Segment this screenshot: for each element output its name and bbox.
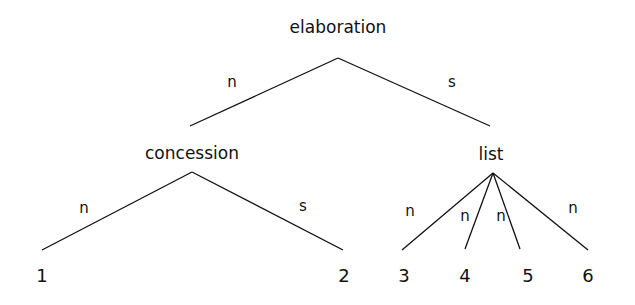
tree-edge	[192, 172, 343, 250]
leaf-4: 4	[459, 267, 470, 285]
node-elaboration: elaboration	[290, 19, 387, 36]
leaf-1: 1	[36, 267, 47, 285]
edge-label-list-4: n	[568, 201, 578, 216]
tree-edge	[338, 58, 490, 126]
edge-label-list-3: n	[496, 209, 506, 224]
tree-edge	[42, 172, 192, 250]
edge-label-root-left: n	[227, 75, 237, 90]
node-concession: concession	[145, 145, 239, 162]
edge-label-list-1: n	[405, 204, 415, 219]
leaf-2: 2	[338, 267, 349, 285]
node-list: list	[479, 146, 504, 163]
edge-label-root-right: s	[448, 75, 456, 90]
edge-label-concession-left: n	[79, 201, 89, 216]
tree-edge	[190, 58, 338, 126]
leaf-3: 3	[398, 267, 409, 285]
tree-edges	[0, 0, 635, 305]
edge-label-concession-right: s	[299, 199, 307, 214]
leaf-6: 6	[582, 267, 593, 285]
edge-label-list-2: n	[460, 209, 470, 224]
leaf-5: 5	[522, 267, 533, 285]
